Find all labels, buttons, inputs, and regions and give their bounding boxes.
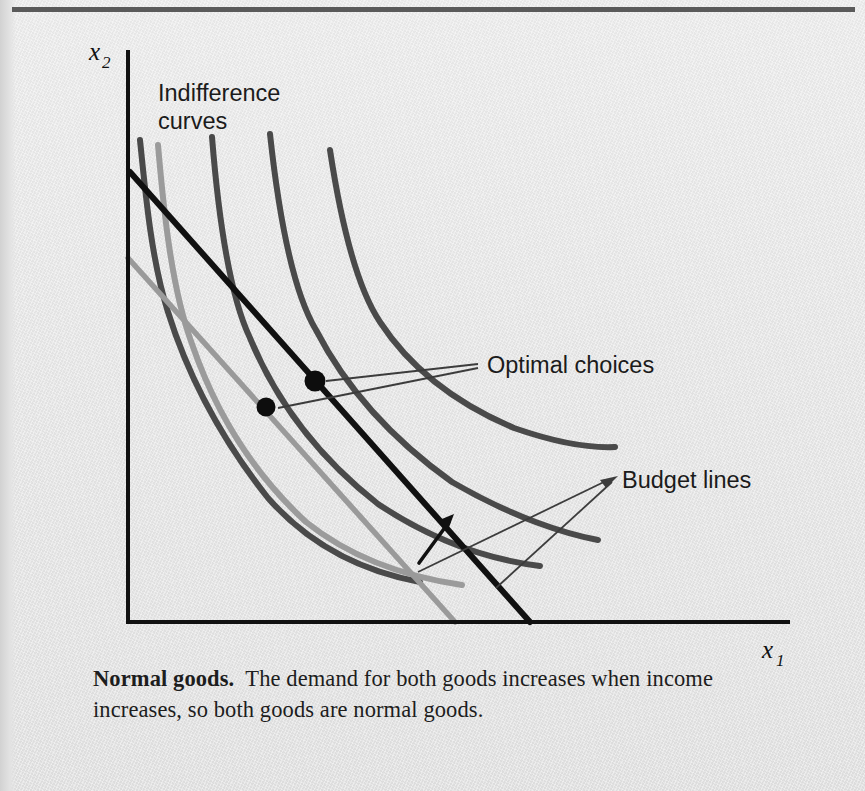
- caption-lead: Normal goods.: [93, 666, 234, 691]
- y-axis-label-subscript: 2: [102, 53, 111, 72]
- indifference-curve-5: [330, 150, 615, 447]
- x-axis-label-subscript: 1: [776, 651, 785, 670]
- budget-line-low-income: [128, 258, 455, 622]
- optimal-choice-dot-low: [257, 398, 276, 417]
- indifference-curves-label-line2: curves: [158, 108, 227, 134]
- budget-lines-label: Budget lines: [622, 467, 751, 493]
- optimal-choices-label: Optimal choices: [487, 352, 654, 378]
- income-increase-arrow: [419, 514, 454, 563]
- leader-arrowhead-budget: [600, 476, 618, 488]
- figure-caption: Normal goods.The demand for both goods i…: [93, 664, 773, 725]
- leader-line-budget-lower: [496, 482, 612, 588]
- x-axis-label: x: [761, 636, 773, 663]
- indifference-curves-label-line1: Indifference: [158, 80, 280, 106]
- axes-group: [126, 50, 790, 622]
- caption-body-line1: The demand for both goods increases when: [245, 666, 640, 691]
- indifference-curve-4: [270, 134, 598, 540]
- optimal-choice-dot-high: [305, 371, 326, 392]
- annotations-group: Indifference curves Optimal choices Budg…: [158, 80, 751, 493]
- figure-page: x 2 x 1 Indifference curves Optimal choi…: [0, 0, 865, 791]
- y-axis-label: x: [88, 38, 100, 65]
